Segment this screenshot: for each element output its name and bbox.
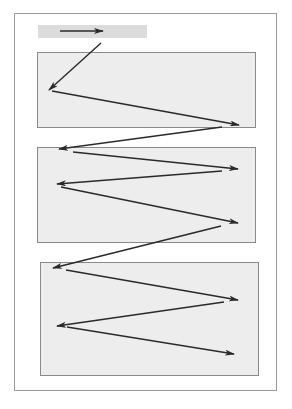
content-box-1 xyxy=(37,52,256,128)
content-box-3 xyxy=(40,262,259,376)
header-bar xyxy=(38,25,147,38)
content-box-2 xyxy=(37,147,256,243)
